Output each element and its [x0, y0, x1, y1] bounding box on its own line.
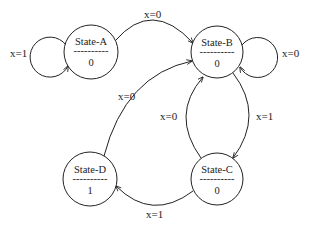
- state-divider: ----------: [200, 173, 235, 184]
- state-diagram: x=1 x=0 x=0 x=1 x=0 x=1 x=0 State-A ----…: [0, 0, 312, 225]
- transition-label: x=0: [144, 8, 162, 20]
- transition-label: x=1: [256, 110, 273, 122]
- state-b: State-B ---------- 0: [191, 26, 243, 78]
- state-d: State-D ---------- 1: [63, 152, 117, 206]
- state-output: 0: [214, 185, 219, 196]
- state-a: State-A ---------- 0: [64, 25, 118, 79]
- transition-c-to-d: x=1: [116, 186, 193, 220]
- state-c: State-C ---------- 0: [191, 153, 243, 205]
- transition-a-to-b: x=0: [115, 8, 193, 43]
- transition-label: x=0: [282, 47, 300, 59]
- transition-label: x=0: [160, 110, 178, 122]
- transition-label: x=1: [10, 47, 27, 59]
- transition-d-to-b: x=0: [104, 61, 192, 156]
- transition-label: x=0: [118, 90, 136, 102]
- state-output: 0: [214, 58, 219, 69]
- state-output: 0: [88, 57, 93, 68]
- transition-a-to-a: x=1: [10, 37, 68, 77]
- transition-c-to-b: x=0: [160, 77, 203, 158]
- transition-label: x=1: [146, 208, 163, 220]
- transition-b-to-c: x=1: [233, 73, 273, 158]
- state-output: 1: [87, 185, 92, 196]
- state-divider: ----------: [73, 173, 108, 184]
- state-divider: ----------: [200, 46, 235, 57]
- state-divider: ----------: [74, 45, 109, 56]
- transition-b-to-b: x=0: [240, 38, 300, 78]
